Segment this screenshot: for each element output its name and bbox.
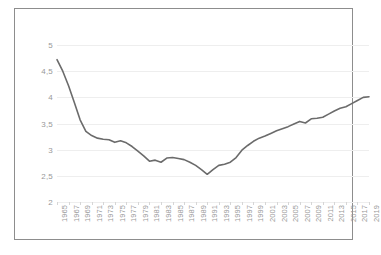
y-tick-label: 5 (23, 41, 53, 50)
x-tick-label: 1965 (60, 205, 69, 222)
x-tick-label: 2007 (303, 205, 312, 222)
x-tick-mark (138, 202, 139, 205)
y-tick-label: 3,5 (23, 119, 53, 128)
x-tick-mark (219, 202, 220, 205)
x-tick-label: 1985 (176, 205, 185, 222)
x-tick-mark (103, 202, 104, 205)
x-tick-mark (161, 202, 162, 205)
x-tick-mark (207, 202, 208, 205)
x-tick-label: 2005 (291, 205, 300, 222)
x-tick-mark (323, 202, 324, 205)
x-tick-mark (300, 202, 301, 205)
y-tick-label: 2,5 (23, 171, 53, 180)
x-tick-label: 1969 (83, 205, 92, 222)
x-tick-mark (334, 202, 335, 205)
x-tick-label: 2011 (326, 205, 335, 222)
x-tick-mark (92, 202, 93, 205)
x-tick-mark (69, 202, 70, 205)
x-tick-mark (230, 202, 231, 205)
y-tick-label: 4,5 (23, 67, 53, 76)
x-tick-mark (196, 202, 197, 205)
x-tick-label: 2003 (280, 205, 289, 222)
x-tick-label: 1989 (199, 205, 208, 222)
series-canvas (57, 45, 369, 202)
x-tick-mark (369, 202, 370, 205)
x-tick-label: 1987 (187, 205, 196, 222)
x-tick-label: 1975 (118, 205, 127, 222)
x-tick-label: 2013 (337, 205, 346, 222)
x-tick-label: 2001 (268, 205, 277, 222)
plot-area (57, 45, 369, 202)
x-tick-mark (288, 202, 289, 205)
x-tick-mark (357, 202, 358, 205)
x-tick-mark (311, 202, 312, 205)
x-tick-mark (242, 202, 243, 205)
y-axis-labels: 22,533,544,55 (23, 45, 53, 202)
line-series-svg (57, 45, 369, 202)
x-tick-label: 1995 (233, 205, 242, 222)
x-tick-label: 1967 (72, 205, 81, 222)
x-tick-label: 1979 (141, 205, 150, 222)
x-tick-label: 1997 (245, 205, 254, 222)
x-tick-label: 2009 (314, 205, 323, 222)
x-tick-mark (346, 202, 347, 205)
y-tick-label: 4 (23, 93, 53, 102)
x-tick-label: 2017 (360, 205, 369, 222)
x-tick-mark (126, 202, 127, 205)
x-tick-label: 2015 (349, 205, 358, 222)
y-tick-label: 2 (23, 198, 53, 207)
x-tick-label: 2019 (372, 205, 381, 222)
x-tick-label: 1971 (95, 205, 104, 222)
x-tick-mark (173, 202, 174, 205)
x-tick-label: 1977 (129, 205, 138, 222)
x-tick-mark (149, 202, 150, 205)
x-tick-label: 1993 (222, 205, 231, 222)
x-tick-label: 1983 (164, 205, 173, 222)
x-tick-mark (115, 202, 116, 205)
line-series-value (57, 60, 369, 175)
x-tick-label: 1999 (256, 205, 265, 222)
x-tick-mark (277, 202, 278, 205)
x-tick-mark (184, 202, 185, 205)
x-tick-mark (57, 202, 58, 205)
x-tick-mark (265, 202, 266, 205)
x-tick-label: 1973 (106, 205, 115, 222)
x-tick-label: 1991 (210, 205, 219, 222)
x-tick-label: 1981 (152, 205, 161, 222)
x-axis-labels: 1965196719691971197319751977197919811983… (57, 205, 369, 255)
x-tick-mark (80, 202, 81, 205)
chart-frame: 22,533,544,55 19651967196919711973197519… (14, 8, 353, 240)
x-tick-mark (253, 202, 254, 205)
y-tick-label: 3 (23, 145, 53, 154)
